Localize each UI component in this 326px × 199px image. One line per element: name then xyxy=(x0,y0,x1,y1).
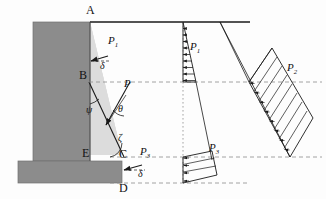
force-base-p2-diagram: P xyxy=(287,61,294,73)
force-sub-p2-diagram: 2 xyxy=(294,68,297,75)
pressure-diagram-p2 xyxy=(220,22,313,157)
point-label-C: C xyxy=(119,148,127,160)
angle-label-theta: θ xyxy=(118,104,123,114)
force-label-p-wedge: P xyxy=(124,78,131,92)
force-sub-p3-diagram: 3 xyxy=(216,148,219,155)
force-base-p3-wall: P xyxy=(140,145,147,157)
point-label-E: E xyxy=(82,147,89,159)
force-base-p1-wall: P xyxy=(108,34,115,46)
force-label-p1-wall: P1 xyxy=(108,35,118,49)
angle-label-psi: ψ xyxy=(86,105,92,115)
force-base-p1-diagram: P xyxy=(190,40,197,52)
angle-label-delta-top: δ xyxy=(100,61,105,71)
force-base-p-wedge: P xyxy=(124,77,131,89)
point-label-A: A xyxy=(86,4,95,16)
force-label-p2-diagram: P2 xyxy=(287,62,297,76)
force-sub-p1-wall: 1 xyxy=(115,41,118,48)
force-sub-p1-diagram: 1 xyxy=(197,47,200,54)
angle-label-zeta: ζ xyxy=(118,133,122,143)
force-label-p3-wall: P3 xyxy=(140,146,150,160)
force-label-p3-diagram: P3 xyxy=(209,142,219,156)
point-label-B: B xyxy=(79,69,87,81)
force-label-p1-diagram: P1 xyxy=(190,41,200,55)
force-base-p3-diagram: P xyxy=(209,141,216,153)
point-label-D: D xyxy=(119,182,128,194)
force-sub-p3-wall: 3 xyxy=(147,152,150,159)
retaining-wall-diagram xyxy=(0,0,326,199)
figure-canvas: A B C D E δ ψ θ ζ δ P1 P P3 P1 P2 P3 xyxy=(0,0,326,199)
angle-label-delta-bottom: δ xyxy=(138,169,143,179)
